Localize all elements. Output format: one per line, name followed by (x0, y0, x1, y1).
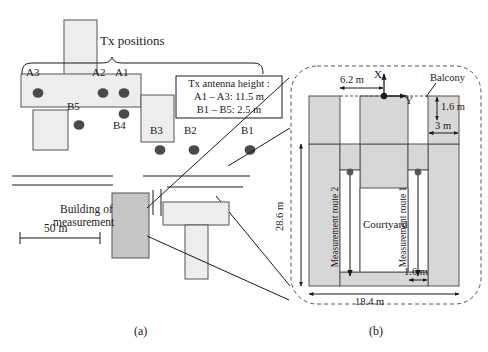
axis-label-y: Y (405, 94, 413, 106)
panel-b-drawing (0, 0, 488, 352)
dim-label-balcony-width: 3 m (435, 120, 451, 131)
dim-label-corridor: 1.6 m (404, 266, 428, 277)
block-north-top (360, 96, 408, 144)
wing-right (428, 144, 459, 286)
wing-left-top (309, 96, 340, 144)
axis-origin-dot (381, 93, 387, 99)
panel-b-caption: (b) (369, 324, 383, 339)
measurement-route-1-label: Measurement route 1 (398, 187, 408, 268)
connector-top-right (408, 144, 428, 170)
figure-container: Tx positions A3 A2 A1 B5 B4 B3 B2 B1 Tx … (0, 0, 488, 352)
dim-label-28-6m: 28.6 m (274, 202, 285, 231)
route-1-start-dot (415, 169, 422, 176)
axis-label-x: X (374, 68, 382, 80)
dim-label-18-4m: 18.4 m (355, 296, 384, 307)
balcony-leader-line (426, 83, 436, 97)
dim-label-6-2m: 6.2 m (340, 74, 364, 85)
route-2-start-dot (347, 169, 354, 176)
measurement-route-2-label: Measurement route 2 (330, 187, 340, 268)
balcony-label: Balcony (430, 72, 465, 83)
connector-top-left (340, 144, 360, 170)
coordinate-axes (381, 74, 406, 99)
dim-label-balcony-depth: 1.6 m (441, 101, 465, 112)
